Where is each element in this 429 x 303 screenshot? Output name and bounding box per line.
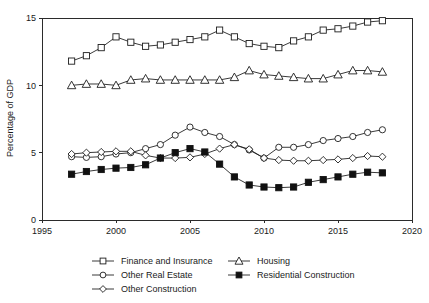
data-point-marker [186,154,193,161]
data-point-marker [231,141,238,148]
data-point-marker [157,141,163,147]
y-axis-title: Percentage of GDP [5,79,15,157]
x-tick-label: 2010 [254,226,274,236]
data-point-marker [350,133,356,139]
y-tick-label: 5 [31,148,36,158]
chart-legend: Finance and InsuranceOther Real EstateOt… [92,256,355,294]
data-point-marker [350,23,356,29]
line-chart: Percentage of GDP 051015 199520002005201… [0,0,429,303]
data-point-marker [202,149,208,155]
data-point-marker [320,177,326,183]
data-point-marker [113,165,119,171]
series-other-construction [68,141,386,164]
x-axis-ticks: 199520002005201020152020 [32,220,422,236]
data-point-marker [69,58,75,64]
legend-label: Finance and Insurance [121,256,213,266]
y-tick-label: 10 [26,81,36,91]
data-point-marker [231,174,237,180]
data-point-marker [305,179,311,185]
data-point-marker [187,36,193,42]
data-point-marker [142,152,149,159]
data-point-marker [98,45,104,51]
data-point-marker [202,129,208,135]
data-point-marker [379,127,385,133]
x-tick-label: 2020 [402,226,422,236]
data-point-marker [334,156,341,163]
data-point-marker [217,27,223,33]
data-point-marker [216,145,223,152]
data-point-marker [276,45,282,51]
data-point-marker [365,19,371,25]
data-point-marker [100,272,106,278]
data-point-marker [141,74,149,82]
data-point-marker [305,141,311,147]
legend-item-residential-construction[interactable]: Residential Construction [228,270,355,280]
data-point-marker [305,34,311,40]
data-point-marker [261,43,267,49]
data-point-marker [364,152,371,159]
data-point-marker [100,258,106,264]
data-point-marker [172,132,178,138]
data-point-marker [276,144,282,150]
data-point-marker [187,124,193,130]
data-point-marker [143,43,149,49]
legend-item-housing[interactable]: Housing [228,256,290,266]
legend-label: Residential Construction [257,270,355,280]
legend-label: Other Real Estate [121,270,193,280]
data-point-marker [246,182,252,188]
data-point-marker [187,146,193,152]
y-axis-title-group: Percentage of GDP [5,79,15,157]
data-point-marker [335,26,341,32]
data-point-marker [69,171,75,177]
data-point-marker [379,153,386,160]
series-finance-and-insurance [69,18,386,65]
legend-item-other-real-estate[interactable]: Other Real Estate [92,270,193,280]
data-point-marker [379,170,385,176]
data-point-marker [305,157,312,164]
data-point-marker [379,18,385,24]
data-point-marker [236,272,242,278]
axis-lines [42,18,412,220]
data-point-marker [113,34,119,40]
data-point-marker [172,150,178,156]
x-tick-label: 2005 [180,226,200,236]
data-point-marker [260,154,267,161]
x-tick-label: 2015 [328,226,348,236]
data-point-marker [128,39,134,45]
data-point-marker [335,174,341,180]
chart-figure: Percentage of GDP 051015 199520002005201… [0,0,429,303]
data-point-marker [217,161,223,167]
data-point-marker [261,184,267,190]
data-point-marker [143,162,149,168]
x-tick-label: 2000 [106,226,126,236]
data-point-marker [202,34,208,40]
data-point-marker [350,171,356,177]
x-tick-label: 1995 [32,226,52,236]
data-point-marker [335,135,341,141]
data-point-marker [291,144,297,150]
data-point-marker [172,39,178,45]
data-point-marker [365,169,371,175]
data-point-marker [275,156,282,163]
data-point-marker [290,157,297,164]
data-point-marker [365,129,371,135]
legend-item-finance-and-insurance[interactable]: Finance and Insurance [92,256,213,266]
data-point-marker [157,155,163,161]
legend-item-other-construction[interactable]: Other Construction [92,284,197,294]
data-point-marker [100,286,107,293]
data-point-marker [320,156,327,163]
data-point-marker [230,73,238,81]
y-tick-label: 15 [26,13,36,23]
data-point-marker [143,146,149,152]
data-point-marker [157,42,163,48]
data-point-marker [291,184,297,190]
data-point-marker [276,185,282,191]
legend-label: Housing [257,256,290,266]
data-point-marker [128,164,134,170]
data-series-group [67,18,386,191]
plot-frame [42,18,412,220]
y-axis-ticks: 051015 [26,13,42,225]
series-housing [67,66,386,88]
data-point-marker [320,27,326,33]
data-point-marker [231,34,237,40]
